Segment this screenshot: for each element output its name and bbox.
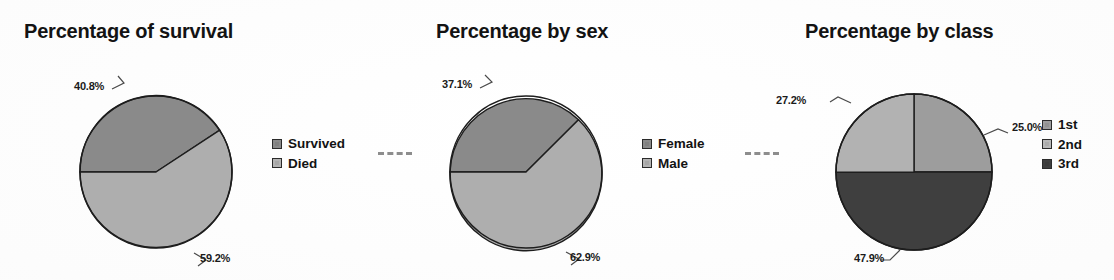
pie-chart-sex [440, 85, 615, 260]
legend-swatch-female [642, 139, 652, 149]
legend-swatch-died [272, 158, 282, 168]
pie-label-1st: 25.0% [1012, 121, 1042, 133]
pie-label-2nd: 27.2% [776, 94, 806, 106]
pie-label-3rd: 47.9% [854, 252, 884, 264]
pie-label-died: 59.2% [200, 252, 230, 264]
pie-chart-class [826, 78, 1006, 268]
pie-slice-3rd [836, 172, 992, 250]
legend-survival: Survived Died [272, 137, 345, 170]
legend-item-died[interactable]: Died [272, 157, 345, 171]
chart-title-survival: Percentage of survival [24, 20, 233, 43]
legend-item-2nd[interactable]: 2nd [1042, 138, 1082, 152]
charts-container: Percentage of survival 40.8% 59.2% Survi… [0, 0, 1114, 280]
legend-label-female: Female [658, 137, 705, 151]
pie-label-survived: 40.8% [74, 80, 104, 92]
legend-item-survived[interactable]: Survived [272, 137, 345, 151]
chart-title-class: Percentage by class [805, 20, 994, 43]
legend-item-male[interactable]: Male [642, 157, 705, 171]
pie-slice-1st [914, 94, 992, 172]
pie-label-female: 37.1% [442, 78, 472, 90]
legend-label-2nd: 2nd [1058, 138, 1082, 152]
legend-item-3rd[interactable]: 3rd [1042, 157, 1082, 171]
pie-label-male: 62.9% [570, 251, 600, 263]
legend-label-died: Died [288, 157, 317, 171]
legend-class: 1st 2nd 3rd [1042, 118, 1082, 171]
legend-label-1st: 1st [1058, 118, 1078, 132]
pie-slice-2nd [836, 94, 914, 172]
legend-item-female[interactable]: Female [642, 137, 705, 151]
legend-swatch-survived [272, 139, 282, 149]
chart-group-sex: Percentage by sex 37.1% 62.9% Female [380, 0, 758, 280]
chart-group-class: Percentage by class 27.2% 25.0% 47.9% [758, 0, 1114, 280]
pie-chart-survival [70, 85, 245, 260]
chart-group-survival: Percentage of survival 40.8% 59.2% Survi… [0, 0, 380, 280]
legend-swatch-1st [1042, 120, 1052, 130]
legend-label-survived: Survived [288, 137, 345, 151]
legend-sex: Female Male [642, 137, 705, 170]
legend-label-male: Male [658, 157, 688, 171]
chart-title-sex: Percentage by sex [436, 20, 608, 43]
legend-item-1st[interactable]: 1st [1042, 118, 1082, 132]
legend-swatch-2nd [1042, 139, 1052, 149]
legend-swatch-male [642, 158, 652, 168]
legend-swatch-3rd [1042, 159, 1052, 169]
legend-label-3rd: 3rd [1058, 157, 1079, 171]
